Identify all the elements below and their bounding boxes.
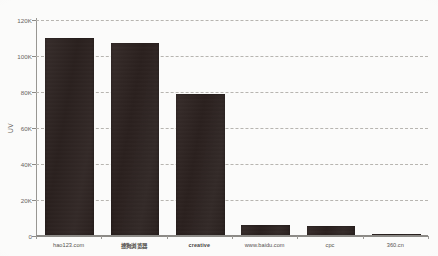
bar[interactable]: [45, 38, 93, 236]
y-tick-label: 100K: [6, 53, 32, 60]
x-tick-mark: [363, 236, 364, 239]
bars-layer: [37, 20, 428, 236]
x-tick-label: cpc: [326, 242, 335, 248]
x-tick-mark: [297, 236, 298, 239]
y-tick-mark: [32, 164, 36, 165]
x-tick-label: 搜狗浏览器: [121, 242, 147, 250]
y-tick-mark: [32, 200, 36, 201]
y-tick-label: 40K: [6, 161, 32, 168]
x-tick-label: www.baidu.com: [245, 242, 285, 248]
bar-chart: UV 120K100K80K60K40K20K0 hao123.com搜狗浏览器…: [0, 0, 438, 256]
y-tick-mark: [32, 20, 36, 21]
y-tick-mark: [32, 128, 36, 129]
bar[interactable]: [176, 94, 224, 236]
x-tick-mark: [232, 236, 233, 239]
y-tick-label: 120K: [6, 17, 32, 24]
y-tick-label: 80K: [6, 89, 32, 96]
y-tick-mark: [32, 92, 36, 93]
y-tick-label: 0: [6, 233, 32, 240]
x-tick-label: hao123.com: [53, 242, 84, 248]
x-tick-mark: [167, 236, 168, 239]
y-tick-label: 60K: [6, 125, 32, 132]
y-tick-label: 20K: [6, 197, 32, 204]
x-tick-mark: [428, 236, 429, 239]
x-tick-label: creative: [189, 242, 211, 248]
plot-area: UV 120K100K80K60K40K20K0 hao123.com搜狗浏览器…: [36, 20, 428, 236]
y-tick-mark: [32, 56, 36, 57]
x-tick-label: 360.cn: [387, 242, 404, 248]
bar[interactable]: [111, 43, 159, 236]
x-tick-mark: [101, 236, 102, 239]
x-tick-mark: [36, 236, 37, 239]
